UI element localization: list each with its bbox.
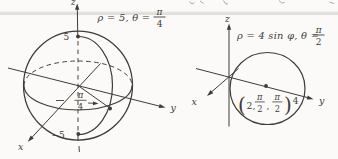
z-axis-arrowhead xyxy=(75,4,79,10)
cropped-text-fragment xyxy=(224,1,229,5)
y-axis xyxy=(196,69,311,99)
point-rho-value: 2, xyxy=(247,100,256,111)
point-frac1-denominator: 2 xyxy=(257,104,262,114)
sphere-z-axis-label: z xyxy=(70,0,76,7)
point-open-paren: ( xyxy=(238,93,246,117)
sphere-figure: ρ = 5, θ = π 4 z y x 5 xyxy=(8,0,177,154)
z-axis-below-dash xyxy=(79,146,80,154)
x-axis xyxy=(30,64,101,141)
circle-z-axis-label: z xyxy=(224,14,230,24)
z-tick-bottom: −5 xyxy=(52,130,66,140)
cropped-text-fragment xyxy=(279,1,285,4)
angle-fraction-denominator: 4 xyxy=(78,102,83,112)
point-close-paren: ) xyxy=(284,93,292,117)
cropped-text-fragment xyxy=(330,2,335,4)
sphere-equation-fraction-numerator: π xyxy=(156,7,164,17)
sphere-equation-fraction: π 4 xyxy=(154,7,166,29)
circle-equation-label: ρ = 4 sin φ, θ = xyxy=(236,30,319,41)
cropped-text-fragment xyxy=(200,1,204,4)
meridian-circle xyxy=(79,37,113,135)
center-point-label: ( 2, π 2 , π 2 ) xyxy=(238,92,292,117)
z-tick-top: 5 xyxy=(64,32,70,42)
y-axis-tick-4: 4 xyxy=(293,96,299,106)
angle-arrowhead xyxy=(93,102,99,106)
y-axis-arrowhead xyxy=(307,96,314,102)
angle-annotation: π 4 xyxy=(56,90,99,112)
point-frac2-denominator: 2 xyxy=(275,104,280,114)
north-pole-dot xyxy=(76,35,80,39)
equator-back-dashed xyxy=(24,61,132,86)
cropped-text-fragment xyxy=(190,2,195,4)
spherical-coordinates-figure: ρ = 5, θ = π 4 z y x 5 xyxy=(0,0,338,159)
cropped-text-fragments xyxy=(190,1,335,5)
point-frac1-numerator: π xyxy=(256,92,263,102)
circle-y-axis-label: y xyxy=(318,95,325,106)
y-axis xyxy=(8,68,163,107)
equator-point-dot xyxy=(108,107,112,111)
point-separator-comma: , xyxy=(267,100,270,111)
south-pole-dot xyxy=(76,132,80,136)
point-frac2-numerator: π xyxy=(274,92,281,102)
sphere-y-axis-label: y xyxy=(170,102,177,113)
circle-equation-fraction-denominator: 2 xyxy=(316,37,322,47)
sphere-x-axis-label: x xyxy=(18,141,24,152)
sphere-equation-label: ρ = 5, θ = xyxy=(97,12,151,23)
z-axis-upper xyxy=(77,9,78,38)
circle-x-axis-label: x xyxy=(192,96,198,107)
sphere-equation-fraction-denominator: 4 xyxy=(157,19,163,29)
textbook-figure-page: ρ = 5, θ = π 4 z y x 5 xyxy=(0,0,338,159)
angle-fraction-numerator: π xyxy=(77,90,84,100)
circle-figure: ρ = 4 sin φ, θ = π 2 z y 4 x ( 2, π 2 , xyxy=(192,14,326,127)
y-axis-arrowhead xyxy=(159,104,166,110)
circle-center-dot xyxy=(264,84,268,88)
circle-equation-fraction-numerator: π xyxy=(315,25,323,35)
